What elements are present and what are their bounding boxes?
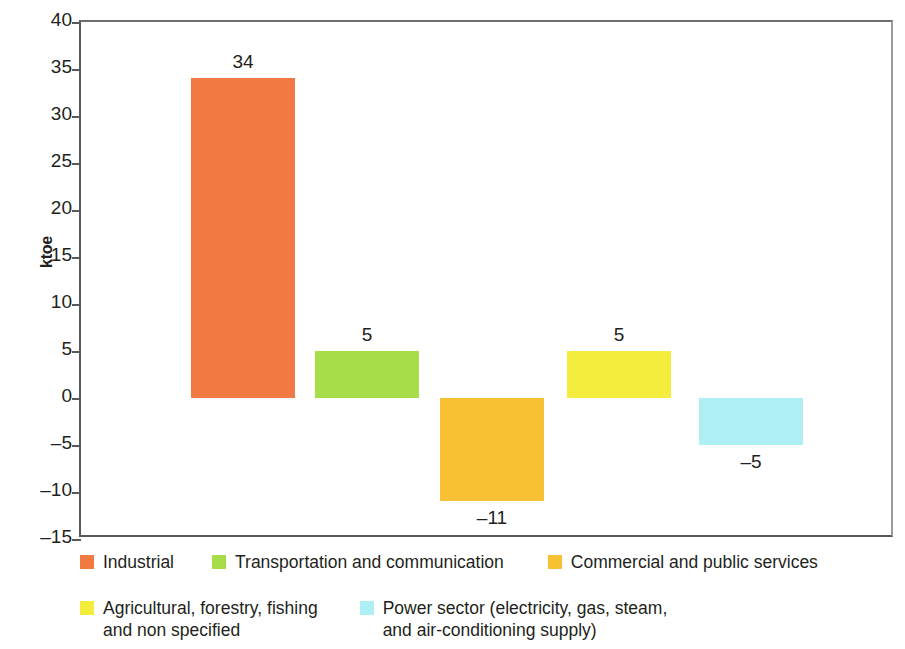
bar	[567, 351, 671, 398]
y-tick-label: 5	[26, 339, 72, 358]
legend-row-1: IndustrialTransportation and communicati…	[80, 551, 900, 573]
legend-swatch-icon	[360, 601, 374, 615]
y-tick-label: –5	[26, 433, 72, 452]
bar-value-label: 5	[567, 325, 671, 344]
bar-value-label: –5	[699, 452, 803, 471]
y-axis-tick-labels: 4035302520151050–5–10–15	[20, 0, 72, 649]
y-tick-mark	[72, 539, 81, 541]
y-tick-label: 20	[26, 198, 72, 217]
legend-swatch-icon	[212, 555, 226, 569]
y-tick-label: 25	[26, 151, 72, 170]
y-tick-mark	[72, 69, 81, 71]
legend-item[interactable]: Transportation and communication	[212, 551, 504, 573]
y-tick-mark	[72, 445, 81, 447]
y-tick-label: –15	[26, 527, 72, 546]
bar	[440, 398, 544, 501]
y-tick-label: 10	[26, 292, 72, 311]
y-tick-mark	[72, 257, 81, 259]
legend-label: Agricultural, forestry, fishing and non …	[103, 597, 318, 641]
legend-swatch-icon	[80, 601, 94, 615]
legend-label: Industrial	[103, 551, 174, 573]
legend-swatch-icon	[80, 555, 94, 569]
bar-value-label: –11	[440, 508, 544, 527]
legend-row-2: Agricultural, forestry, fishing and non …	[80, 597, 900, 641]
y-tick-label: –10	[26, 480, 72, 499]
y-tick-mark	[72, 351, 81, 353]
y-tick-mark	[72, 116, 81, 118]
legend-item[interactable]: Agricultural, forestry, fishing and non …	[80, 597, 318, 641]
legend-label: Transportation and communication	[235, 551, 504, 573]
legend-swatch-icon	[548, 555, 562, 569]
y-tick-label: 40	[26, 10, 72, 29]
bar	[191, 78, 295, 398]
y-tick-mark	[72, 398, 81, 400]
y-tick-mark	[72, 304, 81, 306]
plot-area: 345–115–5	[79, 20, 893, 537]
bar-value-label: 34	[191, 52, 295, 71]
bar-chart: ktoe 4035302520151050–5–10–15 345–115–5 …	[0, 0, 905, 649]
legend-label: Commercial and public services	[571, 551, 818, 573]
y-tick-mark	[72, 492, 81, 494]
bar	[699, 398, 803, 445]
legend-item[interactable]: Industrial	[80, 551, 174, 573]
y-tick-mark	[72, 163, 81, 165]
y-tick-mark	[72, 210, 81, 212]
y-tick-mark	[72, 22, 81, 24]
legend-item[interactable]: Power sector (electricity, gas, steam, a…	[360, 597, 668, 641]
y-tick-label: 0	[26, 386, 72, 405]
legend-item[interactable]: Commercial and public services	[548, 551, 818, 573]
y-tick-label: 35	[26, 57, 72, 76]
y-tick-label: 30	[26, 104, 72, 123]
bar	[315, 351, 419, 398]
legend: IndustrialTransportation and communicati…	[80, 551, 900, 647]
y-tick-label: 15	[26, 245, 72, 264]
legend-label: Power sector (electricity, gas, steam, a…	[383, 597, 668, 641]
bar-value-label: 5	[315, 325, 419, 344]
